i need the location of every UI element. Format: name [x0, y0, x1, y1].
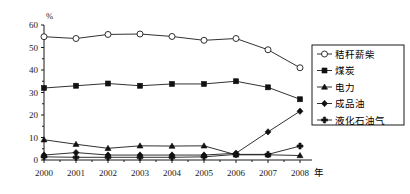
y-tick-label: 50: [29, 43, 39, 53]
series-2: [42, 79, 303, 102]
chart-canvas: 0102030405060%20002001200220032004200520…: [0, 0, 410, 194]
chart-legend: 秸秆薪柴煤炭电力成品油液化石油气: [312, 45, 404, 126]
data-point: [298, 97, 303, 102]
data-point: [201, 37, 207, 43]
line-chart: 0102030405060%20002001200220032004200520…: [0, 0, 410, 194]
series-4: [41, 108, 303, 158]
data-point: [73, 154, 79, 160]
data-point: [138, 83, 143, 88]
x-axis-unit-label: 年: [314, 167, 324, 178]
y-tick-label: 10: [29, 133, 39, 143]
legend-label: 成品油: [335, 98, 365, 109]
data-point: [297, 143, 303, 149]
x-tick-label: 2002: [99, 168, 117, 178]
y-tick-label: 20: [29, 110, 39, 120]
x-tick-label: 2003: [131, 168, 150, 178]
x-tick-label: 2008: [291, 168, 310, 178]
x-tick-label: 2001: [67, 168, 85, 178]
legend-label: 秸秆薪柴: [335, 49, 375, 60]
y-axis-unit-label: %: [46, 11, 53, 21]
data-point: [202, 81, 207, 86]
data-point: [73, 36, 79, 42]
data-point: [265, 47, 271, 53]
legend-marker: [322, 51, 328, 57]
data-point: [106, 81, 111, 86]
data-point: [137, 31, 143, 37]
legend-label: 液化石油气: [335, 115, 385, 126]
data-point: [265, 129, 271, 135]
data-point: [170, 81, 175, 86]
data-point: [234, 79, 239, 84]
y-tick-label: 30: [29, 88, 39, 98]
data-point: [233, 36, 239, 42]
y-tick-label: 40: [29, 65, 39, 75]
data-point: [297, 65, 303, 71]
series-1: [41, 31, 303, 71]
x-tick-label: 2005: [195, 168, 214, 178]
data-point: [297, 108, 303, 114]
data-point: [266, 85, 271, 90]
data-point: [42, 86, 47, 91]
y-tick-label: 0: [34, 155, 39, 165]
x-tick-label: 2007: [259, 168, 278, 178]
data-point: [105, 31, 111, 37]
legend-marker: [322, 68, 327, 73]
data-point: [74, 83, 79, 88]
x-tick-label: 2000: [35, 168, 54, 178]
data-point: [41, 34, 47, 40]
legend-label: 电力: [335, 82, 355, 93]
chart-axes: [44, 25, 312, 160]
x-tick-label: 2004: [163, 168, 182, 178]
legend-label: 煤炭: [335, 65, 355, 76]
data-point: [169, 33, 175, 39]
y-tick-label: 60: [29, 20, 39, 30]
x-tick-label: 2006: [227, 168, 246, 178]
